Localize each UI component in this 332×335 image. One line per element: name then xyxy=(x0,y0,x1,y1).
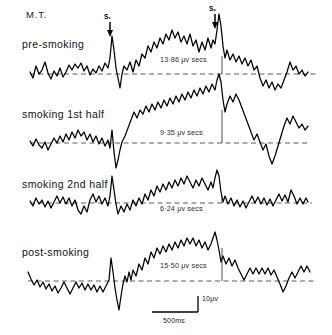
trace-group-pre-smoking: pre-smoking 13·86 μv secs xyxy=(22,14,318,90)
amplitude-calibration-label: 10μv xyxy=(202,295,218,303)
waveform-smoking-1st-half xyxy=(30,74,308,168)
trace-group-post-smoking: post-smoking 15·50 μv secs xyxy=(22,232,316,310)
time-calibration-label: 500ms xyxy=(163,317,185,324)
cnv-eeg-figure: M.T. S₁ S₂ pre-smoking 13·86 μv secs smo… xyxy=(0,0,332,335)
condition-label-smoking-2nd-half: smoking 2nd half xyxy=(22,178,108,190)
calibration-bars: 500ms 10μv xyxy=(152,295,218,324)
stimulus-marker-s1: S₁ xyxy=(104,13,113,37)
waveform-post-smoking xyxy=(28,232,310,310)
trace-group-smoking-2nd-half: smoking 2nd half 6·24 μv secs xyxy=(22,170,312,214)
trace-group-smoking-1st-half: smoking 1st half 9·35 μv secs xyxy=(22,74,310,168)
waveform-pre-smoking xyxy=(30,14,308,90)
stimulus-label-s2: S₂ xyxy=(209,5,216,12)
condition-label-pre-smoking: pre-smoking xyxy=(22,38,84,50)
condition-label-post-smoking: post-smoking xyxy=(22,246,89,258)
stimulus-label-s1: S₁ xyxy=(104,13,111,20)
area-value-post-smoking: 15·50 μv secs xyxy=(160,261,207,270)
condition-label-smoking-1st-half: smoking 1st half xyxy=(22,108,104,120)
area-value-smoking-1st-half: 9·35 μv secs xyxy=(160,128,203,137)
area-value-smoking-2nd-half: 6·24 μv secs xyxy=(160,204,203,213)
subject-id-label: M.T. xyxy=(26,9,47,20)
stimulus-marker-s2: S₂ xyxy=(209,5,218,29)
area-value-pre-smoking: 13·86 μv secs xyxy=(160,55,207,64)
figure-canvas: M.T. S₁ S₂ pre-smoking 13·86 μv secs smo… xyxy=(0,0,332,335)
